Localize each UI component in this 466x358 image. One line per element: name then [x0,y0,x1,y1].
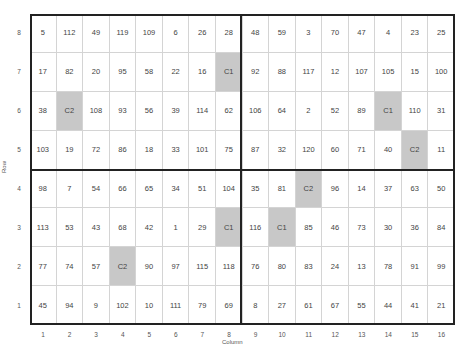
grid-cell: 7 [57,170,84,209]
grid-cell: 31 [428,92,455,131]
grid-cell: 86 [110,131,137,170]
column-tick-label: 9 [243,331,269,338]
y-axis-label: Row [1,161,7,173]
grid-cell: 27 [269,286,296,325]
grid-cell: 21 [428,286,455,325]
grid-cell: 100 [428,53,455,92]
grid-cell: 106 [243,92,270,131]
grid-cell: 24 [322,247,349,286]
grid-cell: 105 [375,53,402,92]
row-tick-label: 8 [14,29,24,36]
grid-cell: 68 [110,208,137,247]
row-tick-label: 6 [14,107,24,114]
grid-cell: 114 [189,92,216,131]
grid-cell: 44 [375,286,402,325]
grid-cell: 116 [243,208,270,247]
grid-cell: 85 [296,208,323,247]
grid-cell: 92 [243,53,270,92]
grid-cell: 61 [296,286,323,325]
column-tick-label: 10 [269,331,295,338]
grid-cell: 73 [349,208,376,247]
grid-cell: 35 [243,170,270,209]
column-tick-label: 7 [189,331,215,338]
row-tick-label: 5 [14,146,24,153]
grid-cell: 110 [402,92,429,131]
grid-cell: 17 [30,53,57,92]
grid-cell: 20 [83,53,110,92]
grid-cell: 9 [83,286,110,325]
column-tick-label: 2 [57,331,83,338]
grid-cell: 81 [269,170,296,209]
highlighted-cell: C2 [402,131,429,170]
grid-cell: 2 [296,92,323,131]
grid-cell: 63 [402,170,429,209]
grid-cell: 41 [402,286,429,325]
grid-cell: 69 [216,286,243,325]
grid-cell: 117 [296,53,323,92]
grid-cell: 36 [402,208,429,247]
grid-cell: 71 [349,131,376,170]
grid-cell: 80 [269,247,296,286]
grid-cell: 107 [349,53,376,92]
grid-cell: 119 [110,14,137,53]
grid-cell: 62 [216,92,243,131]
column-tick-label: 14 [375,331,401,338]
grid-cell: 97 [163,247,190,286]
grid-cell: 94 [57,286,84,325]
grid-cell: 45 [30,286,57,325]
grid-cell: 14 [349,170,376,209]
highlighted-cell: C1 [269,208,296,247]
grid-cell: 102 [110,286,137,325]
grid-cell: 42 [136,208,163,247]
grid-cell: 5 [30,14,57,53]
grid-cell: 58 [136,53,163,92]
grid-cell: 57 [83,247,110,286]
grid-cell: 108 [83,92,110,131]
grid-cell: 103 [30,131,57,170]
grid-cell: 34 [163,170,190,209]
grid-cell: 11 [428,131,455,170]
grid-cell: 8 [243,286,270,325]
grid-cell: 38 [30,92,57,131]
grid-cell: 25 [428,14,455,53]
grid-cell: 93 [110,92,137,131]
grid-cell: 111 [163,286,190,325]
column-tick-label: 16 [428,331,454,338]
grid-cell: 56 [136,92,163,131]
grid-cell: 23 [402,14,429,53]
grid-cell: 82 [57,53,84,92]
grid-cell: 59 [269,14,296,53]
grid-cell: 66 [110,170,137,209]
grid-cell: 65 [136,170,163,209]
highlighted-cell: C2 [296,170,323,209]
column-tick-label: 13 [349,331,375,338]
grid-cell: 113 [30,208,57,247]
grid-cell: 109 [136,14,163,53]
grid-cell: 64 [269,92,296,131]
grid-cell: 75 [216,131,243,170]
grid-cell: 83 [296,247,323,286]
grid-cell: 13 [349,247,376,286]
grid-cell: 51 [189,170,216,209]
row-tick-label: 2 [14,263,24,270]
column-tick-label: 11 [296,331,322,338]
grid-cell: 37 [375,170,402,209]
grid-cell: 29 [189,208,216,247]
grid-cell: 96 [322,170,349,209]
grid-cell: 60 [322,131,349,170]
column-tick-label: 12 [322,331,348,338]
grid-cell: 46 [322,208,349,247]
grid-cell: 74 [57,247,84,286]
row-tick-label: 1 [14,302,24,309]
grid-cell: 53 [57,208,84,247]
grid-cell: 40 [375,131,402,170]
grid-cell: 6 [163,14,190,53]
grid-cell: 12 [322,53,349,92]
grid-cell: 19 [57,131,84,170]
column-tick-label: 4 [110,331,136,338]
grid-cell: 43 [83,208,110,247]
column-tick-label: 6 [163,331,189,338]
grid-cell: 48 [243,14,270,53]
grid-cell: 78 [375,247,402,286]
grid-cell: 76 [243,247,270,286]
